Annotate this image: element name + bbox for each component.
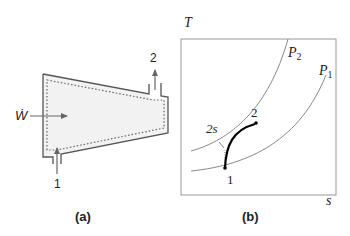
ts-diagram: T s P2 P1 2 2s 1 (b) — [181, 15, 336, 224]
label-p2: P2 — [287, 45, 302, 62]
label-state-1: 1 — [227, 172, 234, 187]
work-label: Ẇ — [15, 108, 29, 123]
compressor-schematic: 2 1 Ẇ (a) — [15, 51, 168, 224]
caption-b: (b) — [242, 209, 259, 224]
state-2-point — [254, 121, 258, 125]
label-p1: P1 — [318, 63, 333, 80]
label-2s-leader — [219, 142, 224, 148]
inlet-label: 1 — [54, 177, 61, 191]
y-axis-label: T — [184, 15, 193, 30]
state-1-point — [223, 166, 227, 170]
actual-process-curve — [225, 124, 255, 168]
plot-frame — [181, 39, 336, 195]
label-state-2: 2 — [251, 105, 258, 120]
outlet-label: 2 — [150, 51, 157, 65]
compressor-diagram: 2 1 Ẇ (a) T s P2 P1 2 2s 1 (b) — [0, 0, 350, 236]
label-state-2s: 2s — [206, 121, 218, 136]
x-axis-label: s — [326, 193, 332, 208]
caption-a: (a) — [75, 209, 91, 224]
